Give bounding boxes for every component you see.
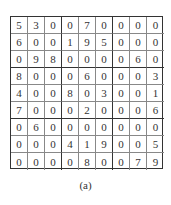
grid-cell: 6	[11, 34, 28, 51]
grid-cell: 0	[113, 34, 130, 51]
grid-cell: 6	[28, 119, 45, 136]
grid-cell: 3	[96, 85, 113, 102]
grid-cell: 0	[130, 119, 147, 136]
grid-cell: 8	[79, 153, 96, 170]
grid-cell: 0	[62, 51, 79, 68]
grid-cell: 0	[130, 34, 147, 51]
grid-cell: 3	[147, 68, 164, 85]
grid-cell: 0	[113, 136, 130, 153]
grid-cell: 2	[79, 102, 96, 119]
grid-cell: 0	[28, 34, 45, 51]
grid-cell: 0	[45, 153, 62, 170]
grid-cell: 0	[113, 17, 130, 34]
sudoku-grid: 5300700006001950000980000608000600034008…	[10, 16, 163, 169]
grid-cell: 0	[96, 17, 113, 34]
grid-cell: 0	[130, 85, 147, 102]
grid-cell: 6	[79, 68, 96, 85]
grid-cell: 0	[11, 136, 28, 153]
grid-cell: 0	[62, 119, 79, 136]
grid-cell: 8	[11, 68, 28, 85]
grid-cell: 1	[62, 34, 79, 51]
grid-cell: 0	[96, 102, 113, 119]
grid-cell: 0	[113, 68, 130, 85]
grid-cell: 9	[147, 153, 164, 170]
grid-cell: 0	[130, 17, 147, 34]
grid-cell: 0	[79, 119, 96, 136]
grid-cell: 9	[79, 34, 96, 51]
grid-cell: 0	[45, 136, 62, 153]
grid-cell: 9	[28, 51, 45, 68]
grid-cell: 0	[130, 136, 147, 153]
grid-cell: 0	[113, 153, 130, 170]
grid-cell: 0	[45, 34, 62, 51]
grid-cell: 0	[62, 68, 79, 85]
grid-cell: 0	[28, 136, 45, 153]
grid-cell: 0	[96, 51, 113, 68]
grid-cell: 0	[147, 17, 164, 34]
grid-cell: 0	[113, 119, 130, 136]
grid-cell: 7	[11, 102, 28, 119]
grid-cell: 0	[79, 51, 96, 68]
grid-cell: 1	[79, 136, 96, 153]
grid-cell: 0	[45, 119, 62, 136]
grid-cell: 0	[45, 68, 62, 85]
grid-cell: 4	[11, 85, 28, 102]
grid-cell: 3	[28, 17, 45, 34]
grid-cell: 0	[147, 119, 164, 136]
grid-cell: 7	[79, 17, 96, 34]
grid-cell: 8	[45, 51, 62, 68]
grid-cell: 7	[130, 153, 147, 170]
grid-cell: 0	[11, 51, 28, 68]
grid-cell: 0	[45, 17, 62, 34]
grid-cell: 0	[113, 102, 130, 119]
grid-cell: 0	[11, 153, 28, 170]
grid-cell: 5	[147, 136, 164, 153]
grid-cell: 0	[113, 51, 130, 68]
grid-cell: 4	[62, 136, 79, 153]
grid-cell: 0	[28, 85, 45, 102]
grid-cell: 0	[96, 68, 113, 85]
grid-cell: 0	[62, 102, 79, 119]
figure-caption: (a)	[0, 179, 171, 191]
grid-cell: 0	[28, 68, 45, 85]
grid-cell: 8	[62, 85, 79, 102]
grid-cell: 5	[11, 17, 28, 34]
grid-cell: 0	[96, 153, 113, 170]
grid-cell: 0	[147, 34, 164, 51]
grid-cell: 9	[96, 136, 113, 153]
grid-cell: 0	[28, 153, 45, 170]
grid-cell: 0	[45, 102, 62, 119]
grid-cell: 1	[147, 85, 164, 102]
grid-cell: 0	[45, 85, 62, 102]
grid-cell: 0	[96, 119, 113, 136]
grid-cell: 0	[130, 102, 147, 119]
grid-cell: 0	[130, 68, 147, 85]
grid-cell: 0	[11, 119, 28, 136]
grid-cell: 0	[79, 85, 96, 102]
grid-cell: 0	[113, 85, 130, 102]
grid-cell: 0	[62, 17, 79, 34]
grid-cell: 6	[147, 102, 164, 119]
grid-cell: 6	[130, 51, 147, 68]
grid-cell: 0	[28, 102, 45, 119]
grid-cell: 5	[96, 34, 113, 51]
grid-cell: 0	[147, 51, 164, 68]
grid-cell: 0	[62, 153, 79, 170]
